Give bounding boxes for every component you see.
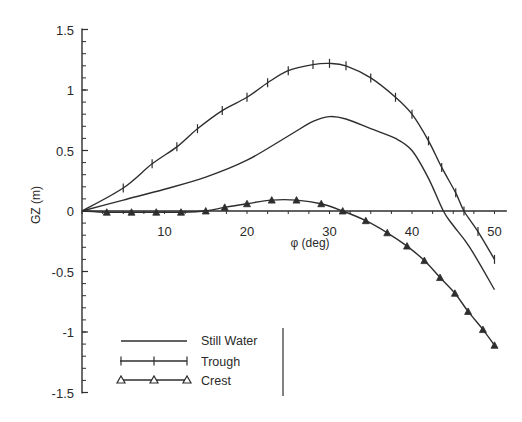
y-tick-label: 0	[67, 204, 74, 219]
legend-label-crest: Crest	[201, 374, 231, 388]
y-axis-title: GZ (m)	[29, 186, 43, 224]
x-axis: 1020304050	[82, 211, 507, 239]
series-markers-crest	[103, 197, 498, 349]
x-tick-label: 20	[240, 224, 254, 239]
y-tick-label: 0.5	[56, 144, 74, 159]
plot-area	[82, 59, 498, 348]
x-axis-title: φ (deg)	[290, 236, 329, 250]
x-tick-label: 10	[157, 224, 171, 239]
y-tick-label: 1.5	[56, 23, 74, 38]
series-still-water	[82, 117, 495, 290]
x-tick-label: 40	[405, 224, 419, 239]
series-line-still-water	[82, 117, 495, 290]
gz-stability-chart: 1.510.50-0.5-1-1.5 1020304050 GZ (m) φ (…	[0, 0, 522, 422]
y-tick-label: -0.5	[52, 265, 74, 280]
legend-label-trough: Trough	[201, 355, 240, 369]
series-line-crest	[82, 200, 495, 346]
series-crest	[82, 197, 498, 349]
y-tick-label: -1	[62, 325, 74, 340]
x-tick-label: 50	[487, 224, 501, 239]
legend-item-trough: Trough	[120, 355, 240, 369]
y-tick-label: -1.5	[52, 386, 74, 401]
y-tick-label: 1	[67, 83, 74, 98]
legend-item-crest: Crest	[117, 374, 231, 388]
series-line-trough	[82, 63, 495, 259]
series-trough	[82, 59, 495, 264]
legend-item-still-water: Still Water	[121, 334, 258, 348]
legend: Still Water Trough Crest	[117, 328, 283, 396]
legend-label-still-water: Still Water	[201, 334, 258, 348]
